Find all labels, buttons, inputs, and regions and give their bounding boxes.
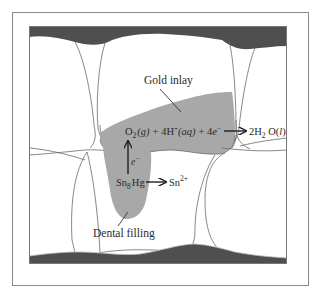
dental-filling-label: Dental filling [93, 227, 155, 240]
gold-inlay-label: Gold inlay [144, 74, 193, 87]
galvanic-cell-diagram: Gold inlay O2(g)+ 4H+(aq)+ 4e− 2H2 O(l) … [0, 0, 317, 299]
